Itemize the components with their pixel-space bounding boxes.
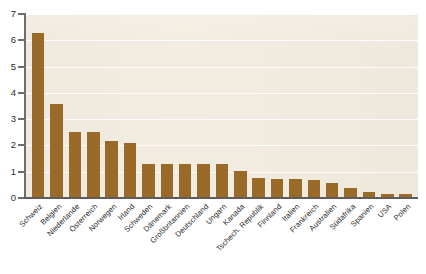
bar-cell — [213, 14, 231, 198]
x-label-cell: Tschech. Republik — [250, 200, 268, 274]
bar-cell — [103, 14, 121, 198]
bar-cell — [341, 14, 359, 198]
x-label-cell: Norwegen — [103, 200, 121, 274]
bar-cell — [176, 14, 194, 198]
bar-cell — [378, 14, 396, 198]
y-axis-tick — [18, 118, 24, 120]
bar — [179, 164, 191, 198]
y-axis-tick-label: 3 — [0, 114, 16, 124]
bar — [124, 143, 136, 198]
bar — [216, 164, 228, 198]
bar — [50, 104, 62, 198]
y-axis-tick-label: 7 — [0, 9, 16, 19]
y-axis-tick-label: 1 — [0, 167, 16, 177]
plot-area — [26, 14, 418, 198]
y-axis-tick-label: 5 — [0, 62, 16, 72]
y-axis-tick — [18, 92, 24, 94]
bar — [105, 141, 117, 198]
bar — [142, 164, 154, 198]
bar — [271, 179, 283, 198]
y-axis-tick-label: 6 — [0, 35, 16, 45]
x-label-cell: Irland — [121, 200, 139, 274]
bar-cell — [360, 14, 378, 198]
y-axis-tick — [18, 66, 24, 68]
bar-cell — [305, 14, 323, 198]
bar — [234, 171, 246, 198]
x-label-cell: Italien — [286, 200, 304, 274]
bar — [69, 132, 81, 198]
y-axis-tick — [18, 197, 24, 199]
y-axis-tick-label: 4 — [0, 88, 16, 98]
x-label-cell: USA — [378, 200, 396, 274]
bar-cell — [139, 14, 157, 198]
y-axis-tick — [18, 39, 24, 41]
bar — [308, 180, 320, 198]
y-axis-tick — [18, 13, 24, 15]
x-label-cell: Schweiz — [29, 200, 47, 274]
x-axis-line — [24, 197, 418, 199]
bar-cell — [84, 14, 102, 198]
bar-cell — [268, 14, 286, 198]
bar-cell — [323, 14, 341, 198]
bar-cell — [286, 14, 304, 198]
bar — [161, 164, 173, 198]
x-label-cell: Frankreich — [305, 200, 323, 274]
bar-cell — [231, 14, 249, 198]
bar — [87, 132, 99, 198]
y-axis-tick — [18, 144, 24, 146]
y-axis-tick-label: 0 — [0, 193, 16, 203]
x-axis-label: Schweiz — [18, 202, 45, 229]
bar-cell — [66, 14, 84, 198]
bar-cell — [158, 14, 176, 198]
x-axis-label: USA — [376, 202, 394, 220]
bar-cell — [194, 14, 212, 198]
bar-cell — [250, 14, 268, 198]
x-label-cell: Finnland — [268, 200, 286, 274]
x-axis-category-labels: SchweizBelgienNiederlandeÖsterreichNorwe… — [26, 200, 418, 274]
x-label-cell: Polen — [397, 200, 415, 274]
x-label-cell: Australien — [323, 200, 341, 274]
bar — [32, 33, 44, 198]
y-axis-tick-label: 2 — [0, 140, 16, 150]
bar — [326, 183, 338, 198]
x-label-cell: Österreich — [84, 200, 102, 274]
x-label-cell: Deutschland — [194, 200, 212, 274]
bar-cell — [397, 14, 415, 198]
bar-chart-figure: 01234567 SchweizBelgienNiederlandeÖsterr… — [0, 0, 426, 274]
bar — [252, 178, 264, 198]
bar-cell — [29, 14, 47, 198]
y-axis-line — [24, 13, 26, 199]
bar-cell — [47, 14, 65, 198]
bar-series — [26, 14, 418, 198]
bar — [289, 179, 301, 198]
x-label-cell: Südafrika — [341, 200, 359, 274]
bar-cell — [121, 14, 139, 198]
x-label-cell: Spanien — [360, 200, 378, 274]
bar — [197, 164, 209, 198]
x-label-cell: Niederlande — [66, 200, 84, 274]
y-axis-tick — [18, 171, 24, 173]
